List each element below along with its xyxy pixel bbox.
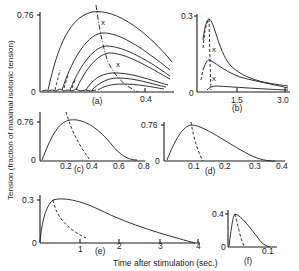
panel-e: 0.3 0 1 2 3 4 (e)	[22, 195, 201, 256]
panel-c-dashed	[66, 112, 90, 160]
panel-f-ytick-top: 0.4	[212, 209, 224, 219]
panel-b-ytick-zero: 0	[189, 88, 194, 98]
panel-d: 0.76 0 0.1 0.2 0.3 0.4 (d)	[141, 120, 288, 176]
panel-a-xtick: 0.4	[140, 94, 152, 104]
panel-e-xtick-1: 1	[78, 244, 83, 254]
panel-c-xtick-1: 0.2	[60, 161, 72, 171]
panel-a: 0.76 0 0.4 (a) x x	[17, 5, 174, 106]
panel-d-curve	[167, 125, 275, 161]
panel-d-xtick-3: 0.3	[249, 161, 261, 171]
panel-c-xtick-3: 0.6	[113, 161, 125, 171]
panel-b: 0.3 0 1.5 3.0 (b) x x	[181, 11, 290, 113]
panel-d-xtick-4: 0.4	[276, 161, 288, 171]
panel-d-ytick-zero: 0	[155, 156, 160, 166]
panel-e-ytick-top: 0.3	[22, 195, 34, 205]
panel-f-label: (f)	[244, 256, 252, 266]
panel-d-label: (d)	[205, 166, 216, 176]
panel-b-label: (b)	[232, 103, 243, 113]
panel-c-label: (c)	[74, 164, 84, 174]
panel-b-marker-x1: x	[212, 45, 216, 54]
panel-f-curve	[229, 214, 270, 247]
panel-f: 0.4 0 0.1 (f)	[212, 209, 277, 266]
panel-c-xtick-2: 0.4	[86, 161, 98, 171]
panel-e-xtick-2: 2	[117, 241, 122, 251]
panel-f-ytick-zero: 0	[221, 242, 226, 252]
panel-d-xtick-1: 0.1	[188, 161, 200, 171]
panel-d-xtick-2: 0.2	[219, 161, 231, 171]
panel-e-xtick-4: 4	[196, 241, 201, 251]
panel-e-curve	[40, 199, 195, 243]
panel-d-ytick-top: 0.76	[141, 120, 158, 130]
x-axis-label: Time after stimulation (sec.)	[113, 258, 218, 268]
panel-c-ytick-top: 0.76	[17, 117, 34, 127]
panel-a-marker-x2: x	[116, 60, 120, 69]
panel-b-marker-x2: x	[212, 74, 216, 83]
panel-e-ytick-zero: 0	[32, 238, 37, 248]
y-axis-label: Tension (fraction of maximal isotonic te…	[6, 40, 15, 200]
panel-a-ytick-zero: 0	[31, 87, 36, 97]
panel-a-ytick-top: 0.76	[17, 10, 34, 20]
panel-c-xtick-4: 0.8	[138, 161, 150, 171]
panel-c: 0.76 0 0.2 0.4 0.6 0.8 (c)	[17, 112, 150, 174]
panel-e-xtick-3: 3	[158, 241, 163, 251]
panel-b-xtick-2: 3.0	[277, 95, 289, 105]
panel-c-curve	[42, 120, 137, 160]
panel-f-xtick: 0.1	[262, 246, 274, 256]
panel-e-dashed	[53, 200, 86, 238]
panel-a-label: (a)	[92, 96, 103, 106]
panel-c-ytick-zero: 0	[31, 155, 36, 165]
panel-e-label: (e)	[95, 246, 106, 256]
panel-a-marker-x1: x	[101, 18, 105, 27]
figure-canvas: Tension (fraction of maximal isotonic te…	[0, 0, 299, 271]
panel-b-ytick-top: 0.3	[181, 11, 193, 21]
